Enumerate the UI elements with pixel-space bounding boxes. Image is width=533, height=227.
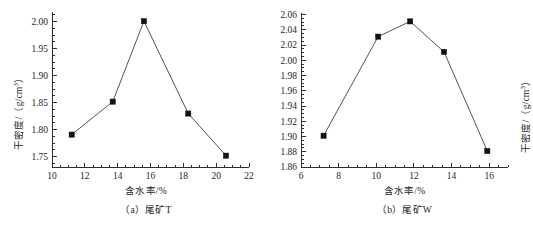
x-tick-label: 18 xyxy=(179,171,189,180)
series-line xyxy=(72,21,226,155)
x-tick-label: 16 xyxy=(484,171,494,180)
chart-plot-a: 101214161820221.751.801.851.901.952.00 xyxy=(0,0,256,180)
x-tick-label: 10 xyxy=(47,171,57,180)
panel-caption-b: （b）尾矿W xyxy=(276,202,533,216)
y-axis-title-a-text: 干密度/（g/cm xyxy=(14,87,24,150)
data-point-marker[interactable] xyxy=(376,34,381,39)
axis-spines xyxy=(301,13,508,167)
data-point-marker[interactable] xyxy=(69,132,74,137)
y-tick-label: 1.86 xyxy=(280,162,297,172)
y-axis-title-b-tail: ） xyxy=(521,76,531,86)
data-point-marker[interactable] xyxy=(141,19,146,24)
y-axis-title-b: 干密度/（g/cm3） xyxy=(518,76,532,153)
y-tick-label: 1.85 xyxy=(31,98,48,108)
y-tick-label: 1.92 xyxy=(280,117,297,127)
x-tick-label: 12 xyxy=(409,171,419,180)
x-axis-title-a: 含水率/% xyxy=(18,183,274,197)
x-tick-label: 8 xyxy=(336,171,341,180)
data-point-marker[interactable] xyxy=(186,111,191,116)
y-tick-label: 1.95 xyxy=(31,44,48,54)
x-tick-label: 12 xyxy=(80,171,90,180)
series-line xyxy=(324,21,488,151)
y-tick-label: 1.98 xyxy=(280,71,297,81)
y-tick-label: 1.88 xyxy=(280,147,297,157)
data-point-marker[interactable] xyxy=(110,99,115,104)
data-point-marker[interactable] xyxy=(485,148,490,153)
chart-plot-b: 68101214161.861.881.901.921.941.961.982.… xyxy=(256,0,513,180)
chart-panel-a: 101214161820221.751.801.851.901.952.00 干… xyxy=(0,0,256,227)
y-tick-label: 2.06 xyxy=(280,10,297,20)
y-tick-label: 1.75 xyxy=(31,152,48,162)
y-axis-title-b-text: 干密度/（g/cm xyxy=(521,90,531,153)
y-tick-label: 1.90 xyxy=(280,132,297,142)
x-tick-label: 6 xyxy=(299,171,304,180)
x-tick-label: 10 xyxy=(372,171,382,180)
y-axis-title-a-exponent: 3 xyxy=(12,83,19,87)
y-axis-title-b-exponent: 3 xyxy=(519,86,526,90)
data-point-marker[interactable] xyxy=(441,49,446,54)
x-tick-label: 14 xyxy=(113,171,123,180)
chart-panel-b: 68101214161.861.881.901.921.941.961.982.… xyxy=(256,0,513,227)
data-point-marker[interactable] xyxy=(408,19,413,24)
y-tick-label: 1.96 xyxy=(280,86,297,96)
panel-caption-a: （a）尾矿T xyxy=(18,202,274,216)
x-tick-label: 22 xyxy=(244,171,254,180)
y-tick-label: 2.02 xyxy=(280,40,297,50)
x-axis-title-b: 含水率/% xyxy=(276,183,533,197)
y-tick-label: 1.94 xyxy=(280,101,297,111)
y-tick-label: 1.90 xyxy=(31,71,48,81)
data-point-marker[interactable] xyxy=(223,153,228,158)
data-point-marker[interactable] xyxy=(321,133,326,138)
y-tick-label: 2.00 xyxy=(280,56,297,66)
y-axis-title-a: 干密度/（g/cm3） xyxy=(11,73,25,150)
y-tick-label: 1.80 xyxy=(31,125,48,135)
y-tick-label: 2.04 xyxy=(280,25,297,35)
x-tick-label: 20 xyxy=(211,171,221,180)
y-axis-title-a-tail: ） xyxy=(14,73,24,83)
x-tick-label: 14 xyxy=(447,171,457,180)
y-tick-label: 2.00 xyxy=(31,17,48,27)
x-tick-label: 16 xyxy=(146,171,156,180)
